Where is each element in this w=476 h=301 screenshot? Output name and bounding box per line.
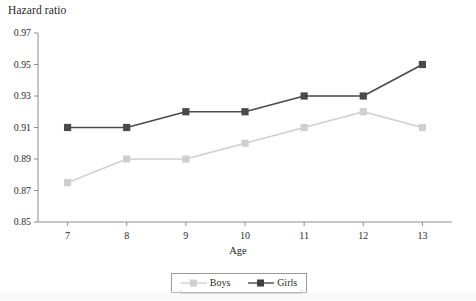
- data-point-girls: [241, 108, 248, 115]
- y-tick-label: 0.89: [0, 153, 31, 164]
- data-point-boys: [123, 155, 130, 162]
- legend-swatch-boys-icon: [181, 278, 207, 288]
- data-point-boys: [360, 108, 367, 115]
- data-point-boys: [182, 155, 189, 162]
- x-tick-label: 8: [107, 230, 147, 241]
- series-line-boys: [68, 112, 423, 183]
- data-point-boys: [301, 124, 308, 131]
- legend-label-girls: Girls: [277, 278, 297, 288]
- data-point-boys: [64, 179, 71, 186]
- y-tick-label: 0.97: [0, 27, 31, 38]
- legend-item-boys: Boys: [181, 278, 231, 288]
- y-tick-label: 0.95: [0, 59, 31, 70]
- legend-swatch-girls-icon: [248, 278, 274, 288]
- x-tick-label: 13: [402, 230, 442, 241]
- data-point-girls: [123, 124, 130, 131]
- data-point-boys: [419, 124, 426, 131]
- x-tick-label: 7: [48, 230, 88, 241]
- y-tick-label: 0.85: [0, 216, 31, 227]
- x-axis-title: Age: [0, 245, 476, 256]
- data-point-boys: [241, 140, 248, 147]
- scan-artifact-line: [180, 290, 302, 294]
- x-tick-label: 11: [284, 230, 324, 241]
- x-tick-label: 12: [343, 230, 383, 241]
- y-tick-label: 0.91: [0, 122, 31, 133]
- data-point-girls: [301, 92, 308, 99]
- series-line-girls: [68, 65, 423, 128]
- hazard-ratio-line-chart: Hazard ratio Age Boys Girls 0.970.950.93…: [0, 0, 476, 301]
- legend-label-boys: Boys: [210, 278, 231, 288]
- data-point-girls: [419, 61, 426, 68]
- legend-item-girls: Girls: [248, 278, 297, 288]
- data-point-girls: [64, 124, 71, 131]
- x-tick-label: 10: [225, 230, 265, 241]
- y-tick-label: 0.93: [0, 90, 31, 101]
- y-tick-label: 0.87: [0, 185, 31, 196]
- data-point-girls: [360, 92, 367, 99]
- x-tick-label: 9: [166, 230, 206, 241]
- data-point-girls: [182, 108, 189, 115]
